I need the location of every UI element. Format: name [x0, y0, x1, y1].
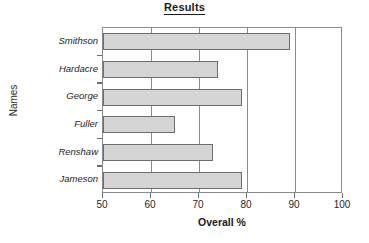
bar	[103, 61, 218, 78]
x-axis-tick-mark	[198, 193, 199, 198]
x-axis-tick-mark	[246, 193, 247, 198]
x-axis-tick-labels: 5060708090100	[102, 199, 342, 213]
x-axis-tick-mark	[102, 193, 103, 198]
chart-title: Results	[0, 1, 369, 15]
x-axis-tick-label: 100	[322, 199, 362, 210]
x-axis-tick-label: 80	[226, 199, 266, 210]
x-axis-tick-label: 70	[178, 199, 218, 210]
chart-title-text: Results	[164, 1, 205, 15]
bar	[103, 116, 175, 133]
y-axis-tick-label: Jameson	[20, 174, 98, 184]
x-axis-tick-label: 90	[274, 199, 314, 210]
y-axis-tick-label: Smithson	[20, 36, 98, 46]
plot-area	[102, 27, 342, 193]
y-axis-tick-label: Renshaw	[20, 147, 98, 157]
gridline	[295, 28, 296, 192]
bar	[103, 144, 213, 161]
y-axis-tick-label: George	[20, 91, 98, 101]
y-axis-tick-label: Fuller	[20, 119, 98, 129]
bar-chart: Results Names SmithsonHardacreGeorgeFull…	[0, 0, 369, 243]
y-axis-title: Names	[8, 66, 19, 136]
x-axis-tick-label: 50	[82, 199, 122, 210]
x-axis-title: Overall %	[102, 216, 342, 228]
x-axis-tick-mark	[150, 193, 151, 198]
x-axis-tick-label: 60	[130, 199, 170, 210]
bar	[103, 172, 242, 189]
x-axis-tick-mark	[342, 193, 343, 198]
y-axis-tick-label: Hardacre	[20, 64, 98, 74]
x-axis-tick-mark	[294, 193, 295, 198]
y-axis-tick-labels: SmithsonHardacreGeorgeFullerRenshawJames…	[20, 27, 98, 193]
gridline	[199, 28, 200, 192]
bar	[103, 33, 290, 50]
bar	[103, 89, 242, 106]
gridline	[151, 28, 152, 192]
gridline	[247, 28, 248, 192]
